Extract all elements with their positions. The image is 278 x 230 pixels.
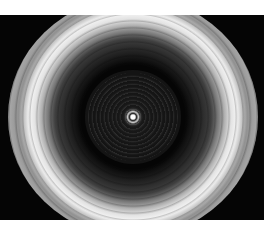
central-bright-spot xyxy=(125,109,141,125)
interference-pattern-image xyxy=(0,15,264,220)
